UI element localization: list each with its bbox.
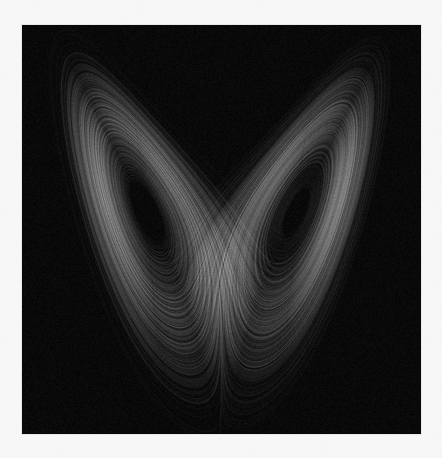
figure-root [0, 0, 442, 458]
figure-caption [22, 436, 421, 456]
attractor-canvas [22, 25, 421, 434]
lorenz-attractor-plot [22, 25, 421, 434]
